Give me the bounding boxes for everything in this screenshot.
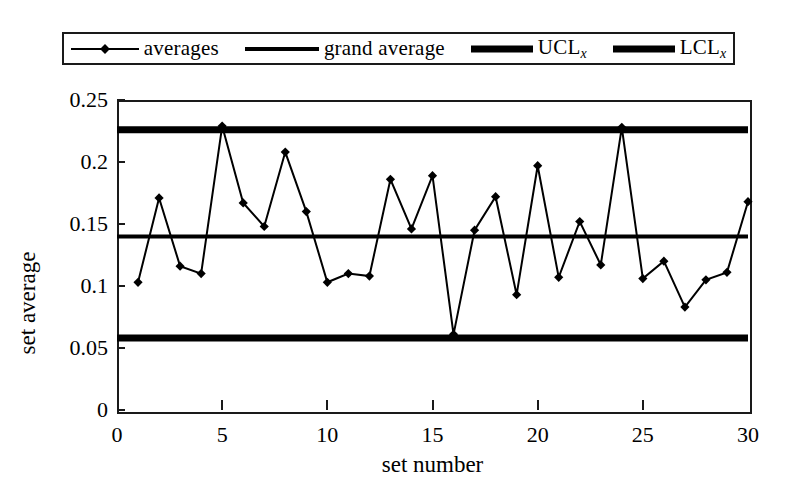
x-tick-label: 10 — [316, 424, 338, 446]
x-tick-label: 5 — [217, 424, 228, 446]
control-chart-figure: averages grand average UCLx LCLx — [0, 0, 798, 498]
y-tick-label: 0.2 — [0, 151, 117, 173]
legend-label-lcl-subscript: x — [720, 45, 726, 60]
y-tick-mark — [117, 347, 125, 349]
legend-swatch-lcl — [613, 42, 675, 56]
legend-label-ucl-subscript: x — [580, 45, 586, 60]
y-tick-label: 0.1 — [0, 275, 117, 297]
data-point-marker — [281, 147, 290, 156]
data-point-marker — [344, 269, 353, 278]
data-point-marker — [491, 192, 500, 201]
y-tick-label: 0.05 — [0, 337, 117, 359]
legend-label-averages: averages — [144, 38, 219, 59]
legend-entry-lcl: LCLx — [613, 37, 726, 61]
x-tick-label: 20 — [527, 424, 549, 446]
data-point-marker — [428, 171, 437, 180]
legend-entry-ucl: UCLx — [471, 37, 587, 61]
legend-swatch-averages — [71, 42, 139, 56]
x-tick-mark — [326, 400, 328, 410]
plot-canvas — [117, 100, 748, 410]
x-tick-mark — [432, 400, 434, 410]
legend-swatch-grand-average — [245, 42, 319, 56]
data-point-marker — [596, 260, 605, 269]
reference-lines-group — [117, 130, 748, 338]
data-point-marker — [154, 193, 163, 202]
y-tick-label: 0.25 — [0, 89, 117, 111]
data-point-marker — [470, 226, 479, 235]
data-point-marker — [554, 273, 563, 282]
data-point-marker — [533, 161, 542, 170]
x-tick-label: 30 — [737, 424, 759, 446]
y-tick-mark — [117, 161, 125, 163]
data-point-marker — [323, 278, 332, 287]
y-axis-label: set average — [15, 213, 41, 393]
legend-entry-grand-average: grand average — [245, 38, 445, 59]
data-point-marker — [722, 268, 731, 277]
legend-label-ucl-text: UCL — [538, 35, 581, 59]
legend-entry-averages: averages — [71, 38, 219, 59]
chart-legend: averages grand average UCLx LCLx — [62, 32, 735, 65]
x-tick-label: 0 — [112, 424, 123, 446]
legend-swatch-ucl — [471, 42, 533, 56]
y-tick-label: 0 — [0, 399, 117, 421]
x-tick-mark — [537, 400, 539, 410]
data-point-marker — [133, 278, 142, 287]
y-tick-mark — [117, 223, 125, 225]
series-line-averages — [138, 126, 748, 334]
data-point-marker — [176, 262, 185, 271]
data-point-marker — [386, 175, 395, 184]
data-point-marker — [302, 207, 311, 216]
x-tick-mark — [642, 400, 644, 410]
data-series-group — [133, 121, 752, 339]
x-axis-label: set number — [117, 452, 748, 478]
data-point-marker — [407, 224, 416, 233]
legend-label-lcl: LCLx — [680, 37, 726, 61]
data-point-marker — [197, 269, 206, 278]
legend-label-grand-average: grand average — [324, 38, 445, 59]
x-tick-mark — [221, 400, 223, 410]
data-point-marker — [365, 271, 374, 280]
data-point-marker — [575, 217, 584, 226]
y-tick-mark — [117, 99, 125, 101]
y-tick-label: 0.15 — [0, 213, 117, 235]
y-tick-mark — [117, 285, 125, 287]
x-tick-label: 15 — [422, 424, 444, 446]
legend-label-lcl-text: LCL — [680, 35, 720, 59]
data-point-marker — [512, 290, 521, 299]
y-axis-ticks: set average 00.050.10.150.20.25 — [0, 100, 117, 410]
legend-label-ucl: UCLx — [538, 37, 587, 61]
x-tick-label: 25 — [632, 424, 654, 446]
